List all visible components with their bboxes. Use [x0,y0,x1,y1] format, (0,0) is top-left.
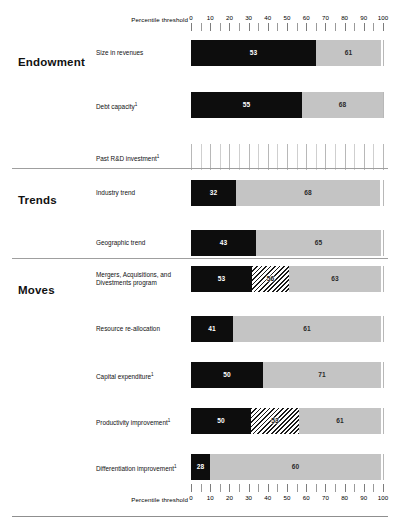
percentile-threshold-chart: Percentile threshold 0102030405060708090… [0,0,400,528]
bar-segment-gray[interactable]: 65 [256,230,381,256]
axis-tick [268,484,269,492]
bar-segment-gray[interactable]: 68 [302,92,383,118]
gridline [373,144,374,170]
axis-tick [325,484,326,492]
bar-segment-gray[interactable]: 71 [263,362,381,388]
axis-tick [383,484,384,492]
bar-segment-gray[interactable]: 60 [210,454,381,480]
row-label: Resource re-allocation [96,325,188,333]
axis-tick [364,23,365,31]
bar-segment-black[interactable]: 43 [191,230,256,256]
bar-value-label: 43 [220,240,227,247]
gridline [220,144,221,170]
row-label: Capital expenditure1 [96,371,188,381]
bar-value-label: 53 [271,418,278,425]
gridline [277,144,278,170]
bar-segment-gray[interactable]: 61 [299,408,381,434]
axis-tick [249,23,250,31]
gridline [191,144,192,170]
axis-tick [316,23,317,31]
axis-tick [258,23,259,31]
axis-tick [383,23,384,31]
axis-tick [297,23,298,31]
bar-segment-gray[interactable]: 63 [289,266,381,292]
bar-segment-hatch[interactable]: 53 [251,408,299,434]
gridline [383,230,384,256]
axis-tick [373,23,374,31]
footnote-marker: 1 [168,418,171,423]
axis-tick-label: 70 [315,494,335,501]
bar-value-label: 55 [243,102,250,109]
axis-title-bottom: Percentile threshold [78,496,188,503]
bar-segment-black[interactable]: 41 [191,316,233,342]
chart-row[interactable]: Debt capacity15568 [0,92,400,118]
gridline [383,454,384,480]
chart-group: TrendsIndustry trend3268Geographic trend… [0,168,400,258]
axis-tick [354,484,355,492]
gridline [210,144,211,170]
axis-tick [287,23,288,31]
axis-tick [277,23,278,31]
axis-tick [268,23,269,31]
footnote-marker: 1 [135,102,138,107]
chart-row[interactable]: Differentiation improvement12860 [0,454,400,480]
axis-tick [201,23,202,31]
axis-tick [306,23,307,31]
axis-tick [258,484,259,492]
bar-value-label: 61 [345,50,352,57]
bar-segment-gray[interactable]: 68 [236,180,380,206]
row-label: Mergers, Acquisitions, and Divestments p… [96,271,188,287]
chart-row[interactable]: Size in revenues5361 [0,40,400,66]
axis-tick [210,23,211,31]
axis-tick-label: 10 [200,494,220,501]
axis-tick-label: 90 [354,494,374,501]
gridline [383,180,384,206]
bar-value-label: 60 [292,464,299,471]
bar-value-label: 68 [339,102,346,109]
axis-tick [345,23,346,31]
chart-row[interactable]: Resource re-allocation4161 [0,316,400,342]
axis-bottom-ticks [191,484,383,493]
bar-segment-black[interactable]: 50 [191,408,251,434]
bar-value-label: 53 [250,50,257,57]
bar-value-label: 61 [336,418,343,425]
bar-segment-black[interactable]: 53 [191,40,316,66]
chart-row[interactable]: Productivity improvement1505361 [0,408,400,434]
gridline [383,266,384,292]
bar-segment-gray[interactable]: 61 [316,40,381,66]
chart-row[interactable]: Mergers, Acquisitions, and Divestments p… [0,266,400,292]
bar-segment-black[interactable]: 28 [191,454,210,480]
bar-segment-black[interactable]: 55 [191,92,302,118]
axis-tick-label: 60 [296,14,316,21]
gridline [383,40,384,66]
axis-bottom-tick-labels: 0102030405060708090100 [191,494,383,503]
chart-row[interactable]: Industry trend3268 [0,180,400,206]
axis-tick [316,484,317,492]
gridline [383,92,384,118]
bar-value-label: 61 [303,326,310,333]
axis-tick [220,23,221,31]
axis-tick-label: 30 [239,494,259,501]
row-label: Past R&D investment1 [96,153,188,163]
chart-row[interactable]: Geographic trend4365 [0,230,400,256]
chart-row[interactable]: Capital expenditure15071 [0,362,400,388]
axis-tick-label: 50 [277,14,297,21]
footer-divider [12,516,388,517]
bar-segment-black[interactable]: 50 [191,362,263,388]
row-label: Productivity improvement1 [96,417,188,427]
bar-segment-gray[interactable]: 61 [233,316,381,342]
axis-tick-label: 10 [200,14,220,21]
bar-segment-black[interactable]: 53 [191,266,252,292]
axis-tick [335,484,336,492]
axis-bottom: Percentile threshold 0102030405060708090… [0,484,400,506]
gridline [316,144,317,170]
bar-segment-black[interactable]: 32 [191,180,236,206]
axis-tick [201,484,202,492]
bar-segment-hatch[interactable]: 56 [252,266,289,292]
axis-tick-label: 70 [315,14,335,21]
gridline [325,144,326,170]
gridline [335,144,336,170]
axis-tick-label: 40 [258,14,278,21]
chart-row[interactable]: Past R&D investment1 [0,144,400,170]
axis-tick [354,23,355,31]
